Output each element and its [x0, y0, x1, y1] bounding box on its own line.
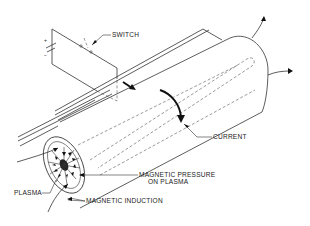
lead-wire-left	[17, 148, 58, 162]
plasma-label: PLASMA	[14, 189, 42, 196]
battery-plus-label: +	[44, 37, 47, 43]
cylinder-inner-slot	[90, 58, 254, 168]
plasma-core	[48, 147, 80, 184]
diagram-canvas: + − SWITCH	[0, 0, 310, 226]
switch-callout: SWITCH	[92, 31, 139, 45]
battery-minus-label: −	[44, 52, 47, 58]
circuit-wire-left-bottom	[52, 29, 97, 91]
outer-conductor-sheet	[55, 29, 222, 120]
battery-icon	[46, 43, 56, 52]
plasma-callout: PLASMA	[14, 180, 56, 196]
switch-label: SWITCH	[112, 31, 139, 38]
switch-icon[interactable]	[80, 38, 92, 53]
magnetic-pressure-label-line1: MAGNETIC PRESSURE	[139, 171, 216, 178]
current-label: CURRENT	[213, 133, 247, 140]
magnetic-pressure-label-line2: ON PLASMA	[148, 178, 189, 185]
lead-wire-bottom	[48, 184, 68, 212]
magnetic-pressure-callout: MAGNETIC PRESSURE ON PLASMA	[79, 171, 216, 185]
pinch-diagram: + − SWITCH	[0, 0, 310, 226]
circuit-loop: + −	[44, 29, 117, 101]
current-callout: CURRENT	[184, 124, 247, 140]
magnetic-induction-label: MAGNETIC INDUCTION	[86, 197, 163, 204]
cylinder-far-end	[230, 36, 268, 112]
lead-wire-right	[268, 71, 290, 75]
magnetic-induction-callout: MAGNETIC INDUCTION	[67, 197, 163, 204]
